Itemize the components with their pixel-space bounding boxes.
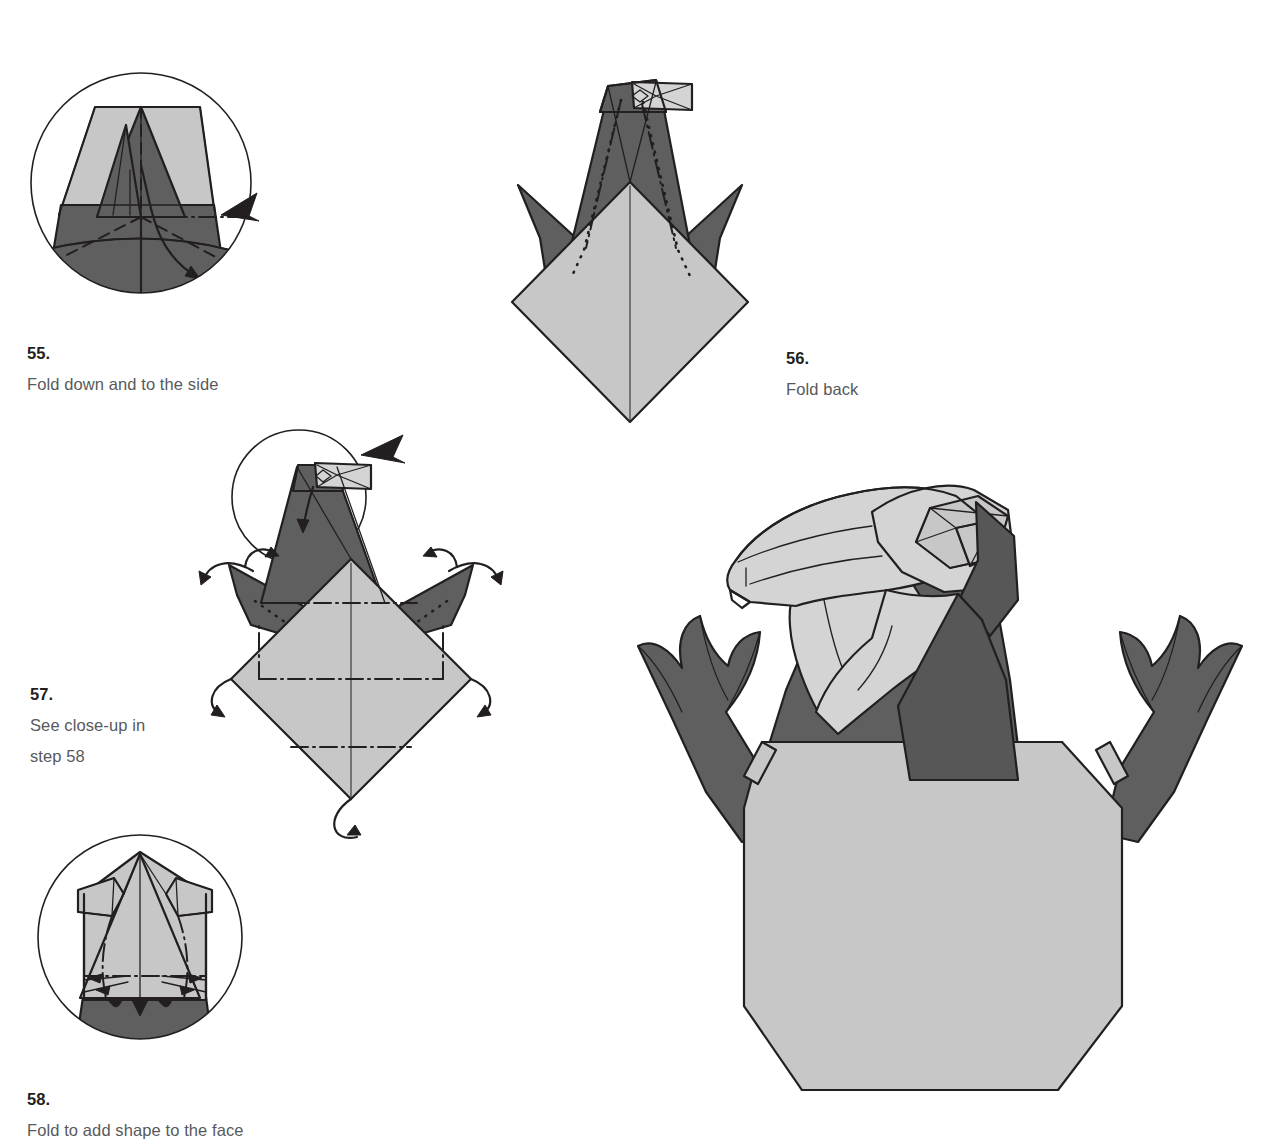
step-55-diagram: [25, 65, 275, 305]
body-final: [744, 742, 1122, 1090]
out-arrow-r2-head: [423, 547, 437, 557]
step-55-paper: [39, 107, 239, 315]
step-56-number: 56.: [786, 349, 809, 367]
step-58-caption: 58. Fold to add shape to the face: [27, 1053, 367, 1143]
step-56-diagram: [480, 70, 780, 440]
step-55-caption: 55. Fold down and to the side: [27, 307, 357, 400]
step-57-diagram: [185, 425, 515, 855]
step-58-paper: [74, 852, 214, 1057]
fold-back-arrow-55: [221, 193, 259, 221]
step-57-caption: 57. See close-up in step 58: [30, 648, 260, 772]
step-56-figure: [480, 70, 780, 440]
final-model-figure: [610, 450, 1267, 1118]
step-55-number: 55.: [27, 344, 50, 362]
step-57-number: 57.: [30, 685, 53, 703]
paper-lower-curve: [39, 239, 235, 316]
fold-back-arrow-57: [361, 435, 405, 463]
bottom-arrow-head: [347, 825, 361, 835]
step-55-text: Fold down and to the side: [27, 375, 218, 393]
step-58-text: Fold to add shape to the face: [27, 1121, 244, 1139]
step-57-figure: [185, 425, 515, 855]
step-56-caption: 56. Fold back: [786, 312, 1086, 405]
step-56-text: Fold back: [786, 380, 858, 398]
step-57-text: See close-up in step 58: [30, 716, 145, 765]
fold-back-arrow-head: [221, 193, 259, 221]
step-58-figure: [28, 832, 263, 1047]
step-58-diagram: [28, 832, 263, 1047]
step-55-figure: [25, 65, 275, 305]
out-arrow-r1-head: [491, 571, 503, 585]
final-eagle-diagram: [610, 450, 1267, 1118]
step-58-number: 58.: [27, 1090, 50, 1108]
out-arrow-l1-head: [199, 571, 211, 585]
